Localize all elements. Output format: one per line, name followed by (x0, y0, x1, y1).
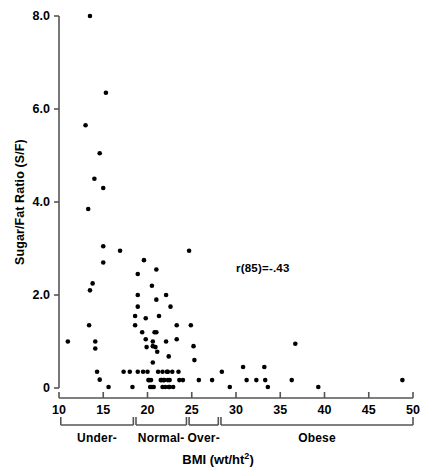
data-point-77 (187, 249, 192, 254)
data-point-4 (97, 151, 102, 156)
data-point-18 (118, 249, 123, 254)
data-point-9 (90, 281, 95, 286)
category-bracket-normal (136, 417, 186, 425)
data-point-82 (210, 378, 215, 383)
data-point-3 (104, 90, 109, 95)
data-point-93 (316, 385, 321, 390)
data-point-88 (262, 365, 267, 370)
category-label-over: Over- (154, 432, 254, 444)
data-point-44 (151, 385, 156, 390)
x-tick-label-40: 40 (310, 404, 340, 417)
scatter-plot-figure: Sugar/Fat Ratio (S/F) 0 2.0 4.0 6.0 8.0 … (0, 0, 436, 475)
data-point-47 (154, 267, 159, 272)
data-point-84 (228, 385, 233, 390)
data-point-12 (87, 323, 92, 328)
data-point-49 (154, 330, 159, 335)
data-point-27 (135, 369, 140, 374)
data-point-86 (244, 378, 249, 383)
data-point-85 (241, 365, 246, 370)
data-point-71 (171, 385, 176, 390)
data-point-87 (254, 378, 259, 383)
data-point-65 (166, 354, 171, 359)
data-point-60 (164, 293, 169, 298)
data-point-90 (266, 385, 271, 390)
data-point-11 (101, 260, 106, 265)
data-point-39 (150, 283, 155, 288)
data-point-38 (149, 378, 154, 383)
data-point-17 (106, 385, 111, 390)
data-point-5 (92, 176, 97, 181)
data-point-10 (88, 288, 93, 293)
data-point-34 (145, 369, 150, 374)
data-point-0 (66, 339, 71, 344)
data-point-69 (168, 304, 173, 309)
data-point-7 (86, 207, 91, 212)
x-tick-label-10: 10 (44, 404, 74, 417)
data-point-94 (400, 378, 405, 383)
data-point-28 (140, 330, 145, 335)
data-point-20 (128, 369, 133, 374)
y-tick-label-6: 6.0 (10, 103, 50, 116)
data-point-19 (121, 369, 126, 374)
data-point-43 (151, 360, 156, 365)
category-label-obese: Obese (267, 432, 367, 444)
data-point-26 (135, 304, 140, 309)
category-bracket-under (61, 417, 134, 425)
data-point-55 (160, 369, 165, 374)
data-point-15 (95, 369, 100, 374)
y-tick-label-0: 0 (10, 382, 50, 395)
data-point-80 (192, 358, 197, 363)
data-point-67 (167, 378, 172, 383)
data-point-30 (142, 258, 147, 263)
x-axis-label: BMI (wt/ht2) (0, 452, 436, 466)
data-point-25 (135, 293, 140, 298)
data-point-1 (88, 14, 93, 19)
data-point-31 (143, 316, 148, 321)
data-point-23 (133, 323, 138, 328)
data-point-2 (83, 123, 88, 128)
category-bracket-over (189, 417, 218, 425)
data-point-33 (144, 345, 149, 350)
data-point-41 (151, 339, 156, 344)
y-tick-label-2: 2.0 (10, 289, 50, 302)
data-point-61 (164, 339, 169, 344)
x-tick-label-25: 25 (177, 404, 207, 417)
data-point-72 (174, 323, 179, 328)
data-point-89 (263, 378, 268, 383)
data-point-76 (181, 378, 186, 383)
x-tick-label-15: 15 (88, 404, 118, 417)
data-point-46 (153, 345, 158, 350)
data-point-92 (293, 342, 298, 347)
data-point-6 (101, 186, 106, 191)
data-point-14 (93, 346, 98, 351)
data-point-81 (197, 378, 202, 383)
data-point-29 (141, 369, 146, 374)
data-point-74 (176, 369, 181, 374)
x-tick-label-30: 30 (221, 404, 251, 417)
data-point-91 (289, 378, 294, 383)
x-axis-label-close: ) (249, 452, 253, 467)
data-point-32 (143, 337, 148, 342)
data-point-73 (174, 337, 179, 342)
data-point-79 (191, 344, 196, 349)
data-point-50 (155, 349, 160, 354)
data-point-70 (170, 369, 175, 374)
x-axis-label-base: BMI (wt/ht (182, 452, 244, 467)
data-point-24 (135, 272, 140, 277)
x-tick-label-20: 20 (133, 404, 163, 417)
y-tick-label-4: 4.0 (10, 196, 50, 209)
y-tick-label-8: 8.0 (10, 10, 50, 23)
x-tick-label-35: 35 (265, 404, 295, 417)
data-point-52 (157, 314, 162, 319)
data-point-13 (93, 339, 98, 344)
data-point-83 (220, 369, 225, 374)
data-point-8 (101, 244, 106, 249)
x-tick-label-45: 45 (354, 404, 384, 417)
data-point-78 (189, 323, 194, 328)
data-point-22 (133, 314, 138, 319)
data-point-16 (97, 377, 102, 382)
data-point-21 (130, 385, 135, 390)
data-point-51 (156, 369, 161, 374)
category-bracket-obese (221, 417, 413, 425)
correlation-annotation: r(85)=-.43 (236, 263, 289, 275)
